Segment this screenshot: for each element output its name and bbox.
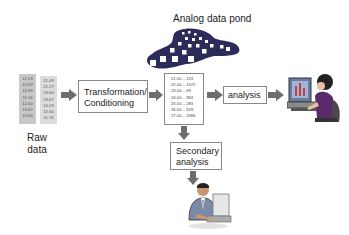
- secondary-line1: Secondary: [176, 146, 221, 157]
- raw-data-column-1: 12.09 13.09 14.96 11.06 12.60 13.67 15.6…: [19, 74, 36, 124]
- pond-title: Analog data pond: [173, 13, 251, 24]
- processed-data-list: 21.00 – 153 22.00 – 1072 23.00 – 69 24.0…: [164, 73, 204, 125]
- arrow-right-icon: [207, 89, 223, 101]
- transformation-box: Transformation/ Conditioning: [78, 80, 148, 113]
- raw-label-line2: data: [22, 144, 52, 156]
- arrow-right-icon: [61, 89, 77, 101]
- raw-data-column-2: 21.09 21.27 19.60 23.67 14.09 15.60 11.7…: [40, 76, 57, 124]
- arrow-down-icon: [178, 126, 190, 140]
- raw-data-label: Raw data: [22, 132, 52, 156]
- data-pond-graphic: [142, 26, 242, 72]
- transformation-line2: Conditioning: [84, 98, 147, 109]
- analysis-label: analysis: [228, 90, 261, 100]
- transformation-line1: Transformation/: [84, 87, 147, 98]
- man-at-computer-icon: [183, 180, 233, 230]
- arrow-right-icon: [149, 89, 163, 101]
- raw-value: 15.60: [19, 113, 36, 119]
- secondary-analysis-box: Secondary analysis: [170, 142, 222, 170]
- woman-at-computer-icon: [287, 72, 342, 128]
- list-item: 27.00 – 1584: [171, 113, 203, 119]
- analysis-box: analysis: [223, 86, 267, 104]
- secondary-line2: analysis: [176, 157, 221, 168]
- arrow-right-icon: [268, 89, 284, 101]
- raw-label-line1: Raw: [22, 132, 52, 144]
- raw-value: 11.76: [40, 115, 57, 121]
